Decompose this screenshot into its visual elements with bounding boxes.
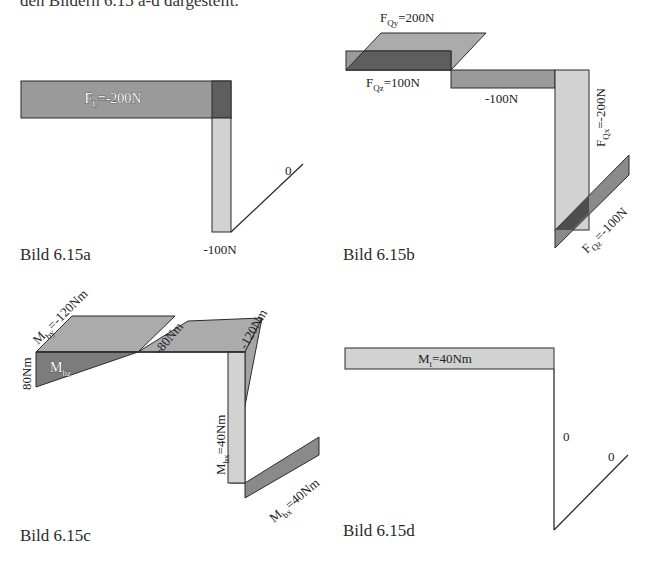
diagram-6-15c: Mby=-120Nm 80Nm Mbz -80Nm -120Nm Mbx=40N… (19, 286, 324, 527)
shear-overlap (346, 51, 451, 70)
caption-6-15b: Bild 6.15b (343, 245, 415, 265)
diagram-6-15a: FL=-200N -100N 0 (21, 81, 303, 257)
diagonal-member-line (231, 164, 303, 232)
vertical-value-label: -100N (203, 242, 237, 257)
left-value-label: 80Nm (19, 358, 34, 391)
fqy-label: FQy=200N (380, 10, 435, 28)
diagonal-value-label: 0 (285, 163, 292, 178)
diagram-6-15d: Mt=40Nm 0 0 (345, 348, 628, 530)
axial-force-bar-vertical (212, 118, 231, 232)
caption-6-15a: Bild 6.15a (20, 245, 91, 265)
diagonal-member-line (554, 455, 628, 530)
caption-6-15d: Bild 6.15d (343, 521, 415, 541)
fqz-label: FQz=100N (366, 75, 421, 93)
shear-mid-bar (451, 70, 555, 88)
internal-force-diagrams: FL=-200N -100N 0 FQy=200N FQz=100N -100N… (0, 0, 653, 563)
fqx-label: FQx=-200N (593, 88, 611, 147)
mid-value-label: -100N (485, 91, 519, 106)
vertical-value-label: 0 (563, 429, 570, 444)
mbx2-label: Mbx=40Nm (266, 475, 324, 528)
caption-6-15c: Bild 6.15c (20, 526, 91, 546)
diagonal-value-label: 0 (608, 449, 615, 464)
overlap-block (212, 81, 231, 118)
diagram-6-15b: FQy=200N FQz=100N -100N FQx=-200N FQz=-1… (346, 10, 633, 258)
